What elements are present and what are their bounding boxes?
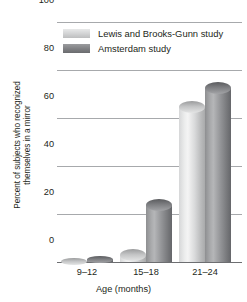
bar-cap bbox=[87, 256, 113, 263]
gridline-80 bbox=[57, 70, 242, 71]
bar-lewis-21-24 bbox=[179, 101, 205, 262]
y-tick-label-40: 40 bbox=[14, 140, 54, 149]
y-tick-label-20: 20 bbox=[14, 188, 54, 197]
y-tick-label-60: 60 bbox=[14, 92, 54, 101]
x-axis-title: Age (months) bbox=[0, 285, 247, 294]
bar-lewis-9-12 bbox=[61, 258, 87, 262]
y-tick-label-100: 100 bbox=[14, 0, 54, 5]
bar-body bbox=[179, 107, 205, 262]
legend-label-amsterdam: Amsterdam study bbox=[98, 44, 171, 53]
bar-amsterdam-15-18 bbox=[146, 199, 172, 262]
bar-body bbox=[205, 88, 231, 262]
legend-label-lewis: Lewis and Brooks-Gunn study bbox=[98, 29, 223, 38]
bar-amsterdam-21-24 bbox=[205, 82, 231, 262]
y-tick-label-80: 80 bbox=[14, 44, 54, 53]
chart-legend: Lewis and Brooks-Gunn study Amsterdam st… bbox=[63, 27, 223, 57]
bar-lewis-15-18 bbox=[120, 249, 146, 262]
y-tick-label-0: 0 bbox=[14, 236, 54, 245]
bar-amsterdam-9-12 bbox=[87, 256, 113, 262]
bar-cap bbox=[146, 199, 172, 211]
x-tick-label-21-24: 21–24 bbox=[170, 268, 240, 277]
bar-chart: Percent of subjects who recognized thems… bbox=[0, 0, 247, 302]
bar-body bbox=[146, 205, 172, 262]
gridline-100 bbox=[57, 22, 242, 23]
plot-area bbox=[57, 22, 242, 262]
bar-cap bbox=[205, 82, 231, 94]
bar-cap bbox=[61, 258, 87, 265]
bar-cap bbox=[120, 249, 146, 261]
bar-cap bbox=[179, 101, 205, 113]
legend-swatch-amsterdam-icon bbox=[63, 44, 90, 53]
legend-item-amsterdam: Amsterdam study bbox=[63, 42, 223, 55]
legend-swatch-lewis-icon bbox=[63, 29, 90, 38]
legend-item-lewis: Lewis and Brooks-Gunn study bbox=[63, 27, 223, 40]
